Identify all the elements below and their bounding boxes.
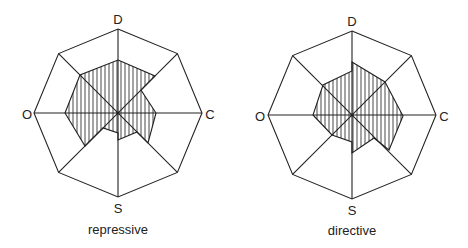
axis-label-s: S <box>114 202 123 215</box>
axis-label-o: O <box>22 108 32 121</box>
axis-label-d: D <box>113 13 122 26</box>
radar-directive: D C S O directive <box>234 0 468 248</box>
axis-label-d: D <box>347 15 356 28</box>
hatched-profile-directive <box>313 62 403 153</box>
axis-label-c: C <box>205 108 214 121</box>
axis-label-c: C <box>439 110 448 123</box>
center-dot <box>350 113 353 116</box>
radar-repressive: D C S O repressive <box>0 0 234 248</box>
caption-directive: directive <box>328 224 376 237</box>
center-dot <box>116 111 119 114</box>
axis-label-o: O <box>255 110 265 123</box>
caption-repressive: repressive <box>88 223 148 236</box>
axis-label-s: S <box>348 204 357 217</box>
